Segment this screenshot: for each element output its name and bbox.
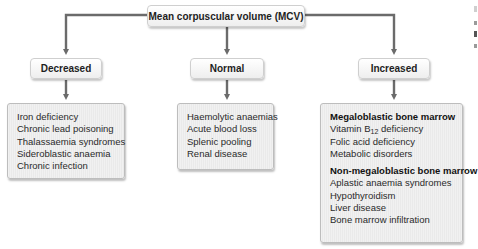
list-item: Chronic lead poisoning xyxy=(17,123,124,135)
root-node-mcv: Mean corpuscular volume (MCV) xyxy=(147,5,305,27)
branch-node-normal: Normal xyxy=(190,58,264,79)
list-item: Sideroblastic anaemia xyxy=(17,148,124,160)
normal-causes-list: Haemolytic anaemias Acute blood loss Spl… xyxy=(177,103,274,170)
branch-label-normal: Normal xyxy=(210,63,244,74)
list-item: Haemolytic anaemias xyxy=(187,111,273,123)
list-item: Splenic pooling xyxy=(187,136,273,148)
decreased-causes-list: Iron deficiency Chronic lead poisoning T… xyxy=(7,103,125,179)
list-item: Renal disease xyxy=(187,148,273,160)
list-item: Iron deficiency xyxy=(17,111,124,123)
list-item: Acute blood loss xyxy=(187,123,273,135)
list-item: Aplastic anaemia syndromes xyxy=(330,177,462,189)
cropped-text-fragment xyxy=(474,31,477,37)
root-label: Mean corpuscular volume (MCV) xyxy=(148,11,303,22)
list-item: Hypothyroidism xyxy=(330,190,462,202)
list-item: Metabolic disorders xyxy=(330,148,462,160)
branch-label-increased: Increased xyxy=(371,63,418,74)
increased-causes-list: Megaloblastic bone marrow Vitamin B12 de… xyxy=(320,103,463,243)
branch-node-decreased: Decreased xyxy=(30,58,102,79)
list-item: Liver disease xyxy=(330,202,462,214)
branch-node-increased: Increased xyxy=(358,58,430,79)
cropped-text-fragment xyxy=(474,6,477,12)
item-text: deficiency xyxy=(378,123,423,134)
item-text: Vitamin B xyxy=(330,123,370,134)
list-item: Bone marrow infiltration xyxy=(330,214,462,226)
list-item-vitamin-b12: Vitamin B12 deficiency xyxy=(330,123,462,135)
list-item: Folic acid deficiency xyxy=(330,136,462,148)
cropped-text-fragment xyxy=(474,44,477,48)
list-item: Thalassaemia syndromes xyxy=(17,136,124,148)
group-heading-megaloblastic: Megaloblastic bone marrow xyxy=(330,111,462,123)
list-item: Chronic infection xyxy=(17,160,124,172)
cropped-text-fragment xyxy=(474,21,477,25)
group-heading-non-megaloblastic: Non-megaloblastic bone marrow xyxy=(330,165,462,177)
branch-label-decreased: Decreased xyxy=(41,63,92,74)
